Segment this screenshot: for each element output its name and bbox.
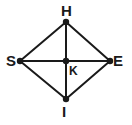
vertex-label-S: S [6, 53, 16, 68]
vertex-label-E: E [113, 53, 123, 68]
vertex-dot-H [63, 19, 69, 25]
vertex-label-I: I [62, 104, 66, 119]
segment-H-E [66, 22, 110, 61]
vertex-label-K: K [69, 65, 78, 77]
segment-I-S [20, 61, 66, 99]
vertex-dot-S [17, 58, 23, 64]
vertex-label-H: H [61, 3, 72, 18]
segment-S-H [20, 22, 66, 61]
geometry-figure: H S E I K [0, 0, 132, 125]
vertex-dot-I [63, 96, 69, 102]
